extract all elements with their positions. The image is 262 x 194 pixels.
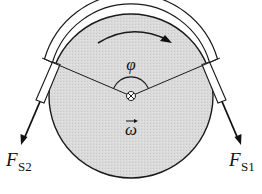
axle-cross-icon: [127, 92, 136, 101]
angular-velocity-label: ω: [125, 119, 138, 139]
force-symbol: F: [228, 149, 241, 170]
force-subscript: S1: [241, 159, 255, 174]
force-subscript: S2: [18, 159, 32, 174]
force-label-fs1: F S1: [228, 149, 255, 174]
force-label-fs2: F S2: [5, 149, 32, 174]
wrap-angle-label: φ: [126, 55, 135, 74]
force-arrow-fs1: [222, 102, 242, 146]
pulley-diagram: φ ω F S2 F S1: [0, 0, 262, 194]
force-symbol: F: [5, 149, 18, 170]
omega-symbol: ω: [125, 120, 137, 139]
force-arrow-fs2: [21, 102, 41, 146]
